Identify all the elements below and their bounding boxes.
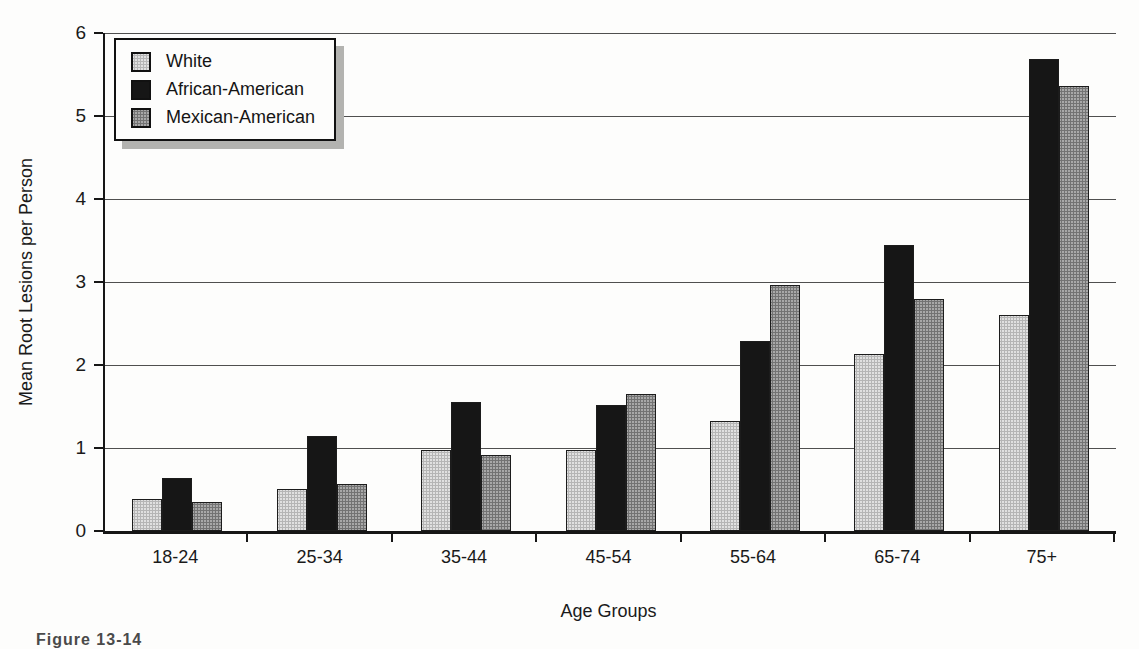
legend-swatch-white-icon — [131, 52, 151, 72]
legend-item-african-american: African-American — [131, 79, 316, 100]
bar-mexican-american-45-54 — [626, 394, 656, 531]
gridline-y-6 — [105, 33, 1116, 34]
legend-label-african-american: African-American — [166, 79, 304, 100]
y-axis-tick-5 — [94, 115, 103, 117]
legend-swatch-mexican-american-icon — [131, 108, 151, 128]
y-axis-title: Mean Root Lesions per Person — [16, 32, 40, 532]
bar-african-american-55-64 — [740, 341, 770, 531]
y-tick-label-4: 4 — [50, 188, 86, 210]
x-axis-tick-6 — [969, 534, 971, 542]
bar-african-american-18-24 — [162, 478, 192, 531]
x-category-label-35-44: 35-44 — [404, 547, 524, 568]
y-tick-label-2: 2 — [50, 354, 86, 376]
x-category-label-75: 75+ — [982, 547, 1102, 568]
bar-african-american-45-54 — [596, 405, 626, 531]
legend-label-mexican-american: Mexican-American — [166, 107, 315, 128]
x-category-label-55-64: 55-64 — [693, 547, 813, 568]
x-axis-tick-2 — [391, 534, 393, 542]
y-axis-tick-0 — [94, 530, 103, 532]
bar-white-25-34 — [277, 489, 307, 531]
x-axis-tick-7 — [1113, 534, 1115, 542]
bar-african-american-65-74 — [884, 245, 914, 531]
bar-white-65-74 — [854, 354, 884, 531]
legend-item-mexican-american: Mexican-American — [131, 107, 316, 128]
y-tick-label-0: 0 — [50, 520, 86, 542]
bar-white-45-54 — [566, 450, 596, 531]
bar-mexican-american-75 — [1059, 86, 1089, 531]
gridline-y-4 — [105, 199, 1116, 200]
x-axis-tick-3 — [535, 534, 537, 542]
bar-mexican-american-65-74 — [914, 299, 944, 531]
y-axis-tick-6 — [94, 32, 103, 34]
bar-white-75 — [999, 315, 1029, 531]
bar-white-35-44 — [421, 450, 451, 531]
legend-swatch-african-american-icon — [131, 80, 151, 100]
y-axis-tick-2 — [94, 364, 103, 366]
x-category-label-25-34: 25-34 — [260, 547, 380, 568]
bar-mexican-american-55-64 — [770, 285, 800, 531]
y-tick-label-3: 3 — [50, 271, 86, 293]
x-category-label-65-74: 65-74 — [837, 547, 957, 568]
x-axis-tick-5 — [824, 534, 826, 542]
bar-african-american-75 — [1029, 59, 1059, 531]
y-axis-tick-4 — [94, 198, 103, 200]
bar-mexican-american-18-24 — [192, 502, 222, 531]
y-axis-tick-1 — [94, 447, 103, 449]
x-axis-tick-4 — [680, 534, 682, 542]
y-tick-label-5: 5 — [50, 105, 86, 127]
x-category-label-45-54: 45-54 — [549, 547, 669, 568]
x-category-label-18-24: 18-24 — [115, 547, 235, 568]
bar-african-american-25-34 — [307, 436, 337, 531]
bar-mexican-american-25-34 — [337, 484, 367, 531]
legend: WhiteAfrican-AmericanMexican-American — [114, 38, 336, 141]
bar-african-american-35-44 — [451, 402, 481, 531]
bar-white-18-24 — [132, 499, 162, 531]
y-axis-tick-3 — [94, 281, 103, 283]
gridline-y-2 — [105, 365, 1116, 366]
x-axis-tick-1 — [246, 534, 248, 542]
y-tick-label-6: 6 — [50, 22, 86, 44]
x-axis-title: Age Groups — [103, 601, 1114, 622]
gridline-y-3 — [105, 282, 1116, 283]
legend-item-white: White — [131, 51, 316, 72]
legend-label-white: White — [166, 51, 212, 72]
figure-caption: Figure 13-14 — [36, 631, 142, 649]
y-tick-label-1: 1 — [50, 437, 86, 459]
bar-mexican-american-35-44 — [481, 455, 511, 531]
bar-white-55-64 — [710, 421, 740, 531]
